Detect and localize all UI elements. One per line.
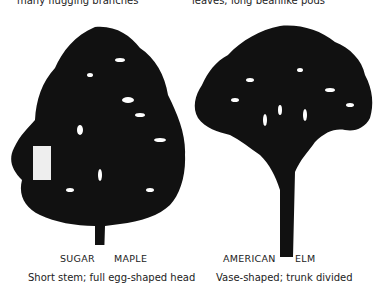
- elm-name-part1: AMERICAN: [223, 253, 276, 264]
- american-elm-illustration: [190, 0, 374, 265]
- maple-name-part1: SUGAR: [60, 253, 95, 264]
- sugar-maple-illustration: [0, 0, 190, 245]
- maple-description: Short stem; full egg-shaped head: [28, 272, 195, 283]
- maple-name-part2: MAPLE: [114, 253, 147, 264]
- elm-description: Vase-shaped; trunk divided: [216, 272, 353, 283]
- elm-name-part2: ELM: [295, 253, 315, 264]
